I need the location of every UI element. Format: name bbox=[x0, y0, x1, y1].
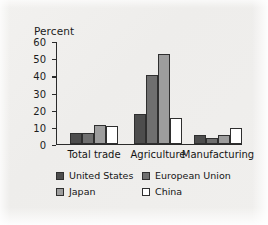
bar-group-2 bbox=[192, 41, 244, 144]
y-axis-line bbox=[56, 42, 57, 145]
legend-swatch-icon-3 bbox=[142, 188, 150, 196]
bar-total-trade-european-union bbox=[82, 133, 94, 143]
legend-label-1: European Union bbox=[155, 170, 231, 181]
legend-item-china: China bbox=[142, 186, 228, 197]
legend-label-2: Japan bbox=[69, 186, 96, 197]
legend-swatch-icon-2 bbox=[56, 188, 64, 196]
bar-manufacturing-european-union bbox=[206, 138, 218, 144]
y-tick-50: 50 bbox=[52, 59, 56, 60]
bar-manufacturing-japan bbox=[218, 135, 230, 144]
y-tick-label-0: 0 bbox=[40, 140, 46, 151]
plot-area: 6050403020100 Total tradeAgricultureManu… bbox=[56, 42, 242, 145]
x-axis-line bbox=[56, 144, 242, 145]
legend-label-3: China bbox=[155, 186, 182, 197]
chart-legend: United StatesEuropean UnionJapanChina bbox=[56, 170, 226, 197]
legend-item-japan: Japan bbox=[56, 186, 142, 197]
bar-agriculture-united-states bbox=[134, 114, 146, 143]
y-tick-label-10: 10 bbox=[33, 122, 46, 133]
bar-agriculture-japan bbox=[158, 54, 170, 143]
y-tick-20: 20 bbox=[52, 111, 56, 112]
category-label-0: Total trade bbox=[67, 149, 120, 160]
bar-total-trade-china bbox=[106, 126, 118, 143]
y-axis-title: Percent bbox=[34, 25, 74, 37]
bar-manufacturing-china bbox=[230, 128, 242, 143]
legend-swatch-icon-0 bbox=[56, 172, 64, 180]
y-tick-0: 0 bbox=[52, 145, 56, 146]
y-tick-label-30: 30 bbox=[33, 88, 46, 99]
y-tick-label-20: 20 bbox=[33, 105, 46, 116]
legend-item-united-states: United States bbox=[56, 170, 142, 181]
y-tick-30: 30 bbox=[52, 94, 56, 95]
category-label-1: Agriculture bbox=[131, 149, 186, 160]
legend-swatch-icon-1 bbox=[142, 172, 150, 180]
y-tick-label-50: 50 bbox=[33, 54, 46, 65]
legend-item-european-union: European Union bbox=[142, 170, 228, 181]
bar-total-trade-united-states bbox=[70, 133, 82, 143]
y-tick-40: 40 bbox=[52, 76, 56, 77]
bar-agriculture-european-union bbox=[146, 75, 158, 144]
category-label-2: Manufacturing bbox=[182, 149, 254, 160]
y-tick-label-60: 60 bbox=[33, 37, 46, 48]
bar-chart-figure: Percent 6050403020100 Total tradeAgricul… bbox=[0, 0, 268, 225]
bar-manufacturing-united-states bbox=[194, 135, 206, 144]
y-tick-label-40: 40 bbox=[33, 71, 46, 82]
bar-group-0 bbox=[68, 41, 120, 144]
bar-total-trade-japan bbox=[94, 125, 106, 144]
bar-agriculture-china bbox=[170, 118, 182, 144]
bar-group-1 bbox=[132, 41, 184, 144]
y-tick-10: 10 bbox=[52, 128, 56, 129]
y-tick-60: 60 bbox=[52, 42, 56, 43]
legend-label-0: United States bbox=[69, 170, 133, 181]
